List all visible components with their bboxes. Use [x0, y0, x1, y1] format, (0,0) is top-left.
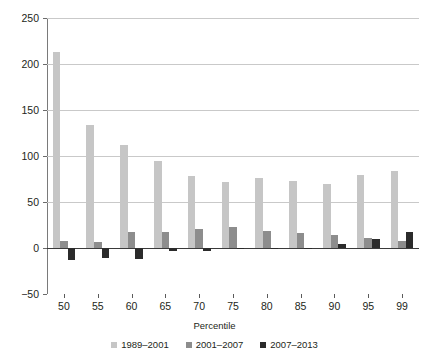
bar-2001-2007-90: [331, 235, 339, 248]
x-tick-mark: [368, 294, 369, 298]
bar-1989-2001-85: [289, 181, 297, 248]
chart-legend: 1989–20012001–20072007–2013: [0, 340, 429, 350]
legend-label: 2007–2013: [270, 340, 318, 350]
x-tick-mark: [301, 294, 302, 298]
y-tick-label: 250: [5, 13, 39, 23]
x-tick-label: 75: [218, 300, 248, 312]
bar-2001-2007-65: [162, 232, 170, 248]
legend-swatch-icon: [186, 342, 192, 348]
bar-group: [81, 18, 115, 294]
bar-1989-2001-60: [120, 145, 128, 248]
bar-1989-2001-75: [222, 182, 230, 248]
bar-2007-2013-50: [68, 248, 76, 260]
legend-swatch-icon: [260, 342, 266, 348]
x-tick-mark: [64, 294, 65, 298]
bar-2007-2013-60: [135, 248, 143, 259]
bar-2001-2007-80: [263, 231, 271, 248]
bar-group: [385, 18, 419, 294]
bar-2001-2007-99: [398, 241, 406, 248]
bar-1989-2001-65: [154, 161, 162, 248]
bar-group: [47, 18, 81, 294]
bar-group: [250, 18, 284, 294]
bar-chart: −50050100150200250 505560657075808590959…: [0, 0, 429, 360]
x-tick-mark: [132, 294, 133, 298]
bar-2007-2013-99: [406, 232, 414, 248]
legend-label: 1989–2001: [121, 340, 169, 350]
bar-2007-2013-85: [304, 248, 312, 249]
bar-group: [351, 18, 385, 294]
bar-1989-2001-50: [53, 52, 61, 248]
y-tick-label: 50: [5, 197, 39, 207]
y-tick-label: 150: [5, 105, 39, 115]
bar-2001-2007-70: [195, 229, 203, 248]
bar-2001-2007-55: [94, 242, 102, 248]
bar-2007-2013-80: [271, 248, 279, 249]
x-tick-label: 90: [319, 300, 349, 312]
bar-2001-2007-95: [364, 238, 372, 248]
bar-1989-2001-80: [255, 178, 263, 248]
legend-swatch-icon: [111, 342, 117, 348]
legend-label: 2001–2007: [196, 340, 244, 350]
legend-item[interactable]: 2007–2013: [260, 340, 318, 350]
bar-2007-2013-55: [102, 248, 110, 258]
bar-group: [318, 18, 352, 294]
x-tick-label: 55: [83, 300, 113, 312]
bar-2001-2007-50: [60, 241, 68, 248]
y-tick-label: 0: [5, 243, 39, 253]
x-tick-mark: [334, 294, 335, 298]
bar-group: [148, 18, 182, 294]
x-tick-label: 85: [286, 300, 316, 312]
x-tick-label: 99: [387, 300, 417, 312]
bar-1989-2001-55: [86, 125, 94, 248]
bar-1989-2001-90: [323, 184, 331, 248]
legend-item[interactable]: 2001–2007: [186, 340, 244, 350]
y-tick-label: 200: [5, 59, 39, 69]
x-tick-mark: [267, 294, 268, 298]
y-tick-mark: [43, 294, 47, 295]
bar-2007-2013-70: [203, 248, 211, 251]
bar-group: [115, 18, 149, 294]
x-tick-label: 60: [117, 300, 147, 312]
bar-group: [182, 18, 216, 294]
bar-2007-2013-95: [372, 239, 380, 248]
x-tick-mark: [199, 294, 200, 298]
y-tick-label: −50: [5, 289, 39, 299]
x-axis-title: Percentile: [0, 320, 429, 331]
bar-1989-2001-99: [391, 171, 399, 248]
bar-1989-2001-70: [188, 176, 196, 248]
bar-group: [216, 18, 250, 294]
x-tick-mark: [98, 294, 99, 298]
x-tick-label: 70: [184, 300, 214, 312]
x-tick-mark: [165, 294, 166, 298]
bar-2001-2007-85: [297, 233, 305, 248]
x-tick-label: 80: [252, 300, 282, 312]
bar-2007-2013-90: [338, 244, 346, 248]
x-tick-label: 50: [49, 300, 79, 312]
bar-group: [284, 18, 318, 294]
x-tick-mark: [402, 294, 403, 298]
y-tick-label: 100: [5, 151, 39, 161]
bar-2001-2007-60: [128, 232, 136, 248]
bar-2001-2007-75: [229, 227, 237, 248]
bar-2007-2013-65: [169, 248, 177, 251]
bar-2007-2013-75: [237, 248, 245, 249]
x-tick-label: 95: [353, 300, 383, 312]
legend-item[interactable]: 1989–2001: [111, 340, 169, 350]
x-tick-mark: [233, 294, 234, 298]
plot-area: [47, 18, 419, 294]
bar-1989-2001-95: [357, 175, 365, 248]
x-tick-label: 65: [150, 300, 180, 312]
